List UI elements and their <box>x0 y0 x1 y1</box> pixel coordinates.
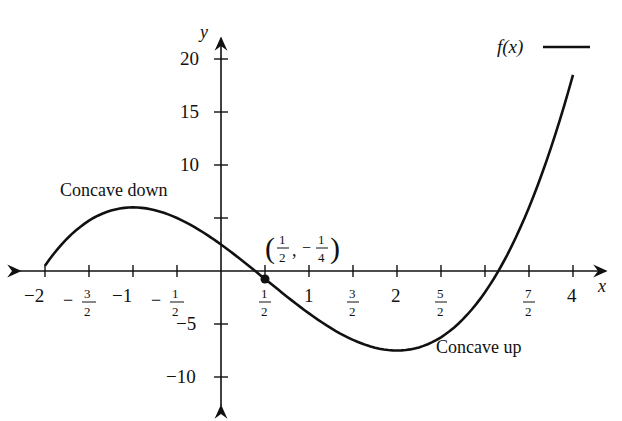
y-tick-label: 20 <box>180 48 199 69</box>
legend-label: f(x) <box>497 36 523 58</box>
legend: f(x) <box>497 36 590 58</box>
y-axis-label: y <box>198 22 208 42</box>
x-tick-label-neg-3-2: − 3 2 <box>63 286 96 319</box>
svg-text:,: , <box>292 240 297 260</box>
svg-text:−: − <box>151 290 161 310</box>
y-tick-label: −5 <box>176 313 196 334</box>
concave-up-label: Concave up <box>436 337 521 357</box>
svg-text:2: 2 <box>84 304 91 319</box>
svg-text:1: 1 <box>261 286 268 301</box>
concave-down-label: Concave down <box>60 180 167 200</box>
point-annotation: ( 1 2 , − 1 4 ) <box>265 231 340 265</box>
x-tick-label: 2 <box>391 285 401 306</box>
x-axis-label: x <box>597 276 606 296</box>
svg-text:4: 4 <box>318 250 325 265</box>
svg-text:2: 2 <box>437 304 444 319</box>
svg-text:−: − <box>63 290 73 310</box>
svg-text:): ) <box>330 231 340 265</box>
x-tick-label-5-2: 5 2 <box>435 286 447 319</box>
svg-text:3: 3 <box>349 286 356 301</box>
chart: y 20 15 10 −5 −10 x −2 −1 1 2 4 − 3 2 − … <box>0 0 622 421</box>
inflection-point <box>261 275 270 284</box>
svg-text:5: 5 <box>437 286 444 301</box>
svg-text:1: 1 <box>172 286 179 301</box>
svg-text:7: 7 <box>525 286 532 301</box>
y-tick-label: 10 <box>180 154 199 175</box>
f-curve <box>45 75 573 351</box>
svg-text:(: ( <box>265 231 275 265</box>
svg-text:2: 2 <box>525 304 532 319</box>
svg-text:1: 1 <box>279 232 286 247</box>
svg-text:1: 1 <box>318 232 325 247</box>
svg-text:2: 2 <box>279 250 286 265</box>
x-tick-label: 1 <box>304 285 314 306</box>
x-tick-label: 4 <box>567 285 577 306</box>
svg-text:2: 2 <box>172 304 179 319</box>
x-tick-label-1-2: 1 2 <box>259 286 271 319</box>
svg-text:2: 2 <box>261 304 268 319</box>
x-tick-label-3-2: 3 2 <box>347 286 359 319</box>
x-tick-label: −1 <box>112 285 132 306</box>
svg-text:3: 3 <box>84 286 91 301</box>
svg-text:2: 2 <box>349 304 356 319</box>
y-tick-label: 15 <box>180 101 199 122</box>
plot-area: y 20 15 10 −5 −10 x −2 −1 1 2 4 − 3 2 − … <box>0 0 622 421</box>
x-tick-label: −2 <box>24 285 44 306</box>
x-tick-label-7-2: 7 2 <box>523 286 535 319</box>
y-tick-label: −10 <box>166 366 196 387</box>
svg-text:−: − <box>302 239 311 256</box>
